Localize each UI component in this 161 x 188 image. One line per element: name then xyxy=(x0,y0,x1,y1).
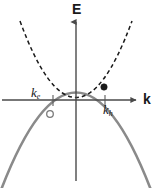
tick-label-ke-base: k xyxy=(31,85,37,100)
hole-marker xyxy=(47,111,54,118)
plot-canvas xyxy=(0,0,161,188)
tick-label-ke-sub: e xyxy=(37,92,41,101)
tick-label-kh: kh xyxy=(103,103,113,116)
band-structure-figure: E k ke kh xyxy=(0,0,161,188)
wavevector-axis-label: k xyxy=(143,92,151,106)
electron-marker xyxy=(101,84,107,90)
tick-label-kh-sub: h xyxy=(109,109,113,118)
tick-label-ke: ke xyxy=(31,86,40,99)
tick-label-kh-base: k xyxy=(103,102,109,117)
energy-axis-label: E xyxy=(72,2,81,16)
